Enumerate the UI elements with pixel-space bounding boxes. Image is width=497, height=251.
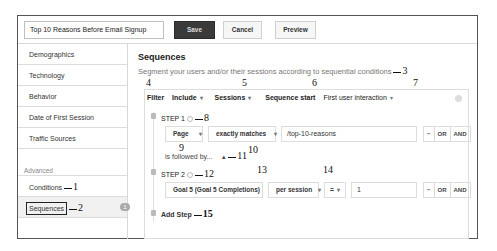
segment-toolbar: Top 10 Reasons Before Email Signup Save … [18, 16, 477, 44]
followed-by-row: is followed by... ▴11 [165, 150, 247, 161]
step-1-logic-buttons: − OR AND [423, 126, 471, 142]
annotation-leader [64, 188, 72, 189]
preview-button[interactable]: Preview [275, 21, 316, 39]
annotation-8: 8 [204, 112, 209, 123]
annotation-10: 10 [248, 144, 258, 155]
per-scope-value: per session [276, 186, 312, 193]
caret-down-icon: ▾ [390, 95, 393, 101]
caret-down-icon: ▾ [248, 95, 251, 101]
remove-filter-icon[interactable] [455, 95, 462, 102]
metric-dropdown[interactable]: Goal 5 (Goal 5 Completions)▾ [165, 182, 263, 198]
step-2-logic-buttons: − OR AND [423, 182, 471, 198]
annotation-3: 3 [402, 65, 407, 76]
step-2-value-input[interactable]: 1 [351, 182, 417, 198]
annotation-11: 11 [237, 150, 247, 161]
segment-editor: Top 10 Reasons Before Email Signup Save … [17, 15, 478, 239]
remove-condition-button[interactable]: − [424, 183, 435, 197]
sidebar-item-demographics[interactable]: Demographics [18, 44, 127, 65]
annotation-14: 14 [323, 164, 333, 175]
caret-down-icon: ▾ [200, 95, 203, 101]
per-scope-dropdown[interactable]: per session▾ [268, 182, 319, 198]
and-button[interactable]: AND [451, 183, 470, 197]
step-1-label: STEP 1 [161, 115, 185, 122]
comparator-dropdown[interactable]: =▾ [324, 182, 346, 198]
sequences-highlight: Sequences [26, 202, 67, 215]
sequence-filter-panel: Filter Include▾ Sessions▾ Sequence start… [144, 89, 469, 239]
annotation-6: 6 [312, 77, 317, 88]
sidebar-item-sequences[interactable]: Sequences2 1 › [18, 197, 127, 218]
annotation-leader [195, 175, 203, 176]
sidebar-item-technology[interactable]: Technology [18, 65, 127, 86]
step-settings-icon[interactable] [187, 116, 193, 122]
remove-condition-button[interactable]: − [424, 127, 435, 141]
step-handle-icon[interactable] [151, 169, 156, 175]
step-settings-icon[interactable] [187, 172, 193, 178]
page-subtitle: Segment your users and/or their sessions… [138, 65, 407, 76]
sidebar-item-traffic-sources[interactable]: Traffic Sources [18, 128, 127, 149]
add-step-row: Add Step15 [161, 208, 213, 219]
step-connector-line [153, 112, 154, 222]
and-button[interactable]: AND [451, 127, 470, 141]
dimension-value: Page [173, 130, 189, 137]
sidebar-item-date-of-first-session[interactable]: Date of First Session [18, 107, 127, 128]
annotation-leader [393, 72, 401, 73]
page-title: Sequences [138, 52, 186, 62]
annotation-leader [195, 119, 203, 120]
or-button[interactable]: OR [435, 127, 451, 141]
followed-by-label: is followed by... [165, 153, 212, 160]
or-button[interactable]: OR [435, 183, 451, 197]
conditions-label: Conditions [29, 184, 62, 191]
subtitle-text: Segment your users and/or their sessions… [138, 67, 391, 76]
add-step-button[interactable]: Add Step [161, 211, 192, 218]
caret-down-icon: ▾ [274, 131, 277, 137]
step-1-header: STEP 18 [161, 112, 209, 123]
step-2-header: STEP 212 [161, 168, 214, 179]
segment-name-input[interactable]: Top 10 Reasons Before Email Signup [24, 21, 164, 39]
sequence-start-dropdown[interactable]: First user interaction▾ [323, 94, 392, 101]
operator-value: exactly matches [216, 130, 266, 137]
step-2-label: STEP 2 [161, 171, 185, 178]
caret-down-icon: ▾ [199, 131, 202, 137]
segment-sidebar: Demographics Technology Behavior Date of… [18, 44, 128, 239]
annotation-7: 7 [413, 77, 418, 88]
caret-down-icon: ▾ [318, 187, 321, 193]
annotation-5: 5 [242, 77, 247, 88]
annotation-leader [69, 209, 77, 210]
sequence-start-label: Sequence start [265, 94, 315, 101]
advanced-section-label: Advanced [18, 166, 127, 176]
scope-value: Sessions [215, 94, 246, 101]
sidebar-item-conditions[interactable]: Conditions1 [18, 176, 127, 197]
step-1-value-input[interactable]: /top-10-reasons [281, 126, 417, 142]
annotation-4: 4 [146, 77, 151, 88]
sequences-label: Sequences [29, 205, 64, 212]
followed-by-toggle-icon[interactable]: ▴ [222, 153, 226, 160]
comparator-value: = [330, 186, 334, 193]
cancel-button[interactable]: Cancel [223, 21, 262, 39]
filter-header: Filter Include▾ Sessions▾ Sequence start… [147, 94, 393, 101]
annotation-leader [228, 157, 236, 158]
sequences-count-badge: 1 [120, 203, 130, 211]
step-handle-icon [151, 210, 156, 216]
metric-value: Goal 5 (Goal 5 Completions) [173, 186, 260, 193]
caret-down-icon: ▾ [337, 187, 340, 193]
annotation-12: 12 [204, 168, 214, 179]
save-button[interactable]: Save [174, 21, 215, 39]
filter-label: Filter [147, 94, 164, 101]
operator-dropdown[interactable]: exactly matches▾ [208, 126, 276, 142]
annotation-1: 1 [73, 181, 78, 192]
include-value: Include [172, 94, 197, 101]
scope-dropdown[interactable]: Sessions▾ [215, 94, 252, 101]
sidebar-item-behavior[interactable]: Behavior [18, 86, 127, 107]
sequence-start-value: First user interaction [323, 94, 386, 101]
annotation-13: 13 [257, 164, 267, 175]
annotation-2: 2 [78, 202, 83, 213]
include-dropdown[interactable]: Include▾ [172, 94, 203, 101]
dimension-dropdown[interactable]: Page▾ [165, 126, 203, 142]
annotation-leader [194, 215, 202, 216]
sequences-panel: Sequences Segment your users and/or thei… [138, 44, 473, 239]
annotation-15: 15 [203, 208, 213, 219]
step-handle-icon[interactable] [151, 113, 156, 119]
